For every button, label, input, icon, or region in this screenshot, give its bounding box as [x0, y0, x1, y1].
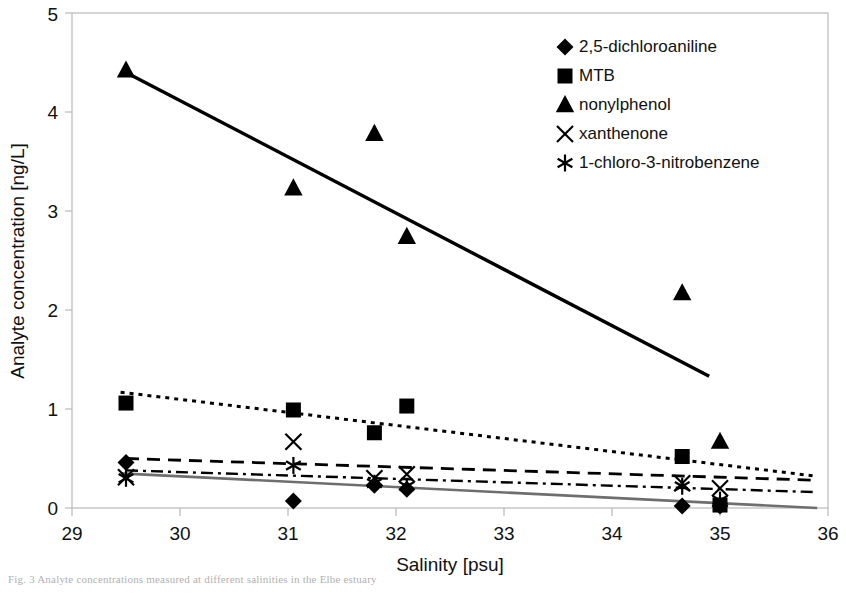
data-point	[399, 399, 414, 414]
data-point	[286, 402, 301, 417]
y-tick-label: 1	[47, 399, 58, 420]
legend-label: xanthenone	[579, 124, 668, 143]
y-axis-title: Analyte concentration [ng/L]	[7, 143, 28, 379]
legend-label: 2,5-dichloroaniline	[579, 37, 717, 56]
y-tick-label: 5	[47, 4, 58, 25]
x-tick-label: 35	[709, 523, 730, 544]
x-tick-label: 36	[817, 523, 838, 544]
y-tick-label: 4	[47, 102, 58, 123]
legend-label: MTB	[579, 66, 615, 85]
x-tick-label: 33	[493, 523, 514, 544]
x-tick-label: 32	[385, 523, 406, 544]
x-tick-label: 34	[601, 523, 623, 544]
data-point	[119, 396, 134, 411]
legend-label: 1-chloro-3-nitrobenzene	[579, 153, 760, 172]
y-tick-label: 3	[47, 201, 58, 222]
data-point	[675, 449, 690, 464]
plot-area-border	[72, 13, 828, 508]
legend-label: nonylphenol	[579, 95, 671, 114]
figure-caption: Fig. 3 Analyte concentrations measured a…	[8, 573, 838, 585]
data-point	[367, 425, 382, 440]
figure-container: 0 1 2 3 4 5 29 30 31 32 33 34 35 36 Sali…	[0, 0, 846, 595]
scatter-chart: 0 1 2 3 4 5 29 30 31 32 33 34 35 36 Sali…	[0, 0, 846, 575]
y-tick-labels: 0 1 2 3 4 5	[47, 4, 58, 519]
x-tick-labels: 29 30 31 32 33 34 35 36	[61, 523, 838, 544]
x-tick-label: 29	[61, 523, 82, 544]
x-tick-label: 30	[169, 523, 190, 544]
legend-marker-square-icon	[558, 69, 573, 84]
y-tick-label: 2	[47, 300, 58, 321]
x-tick-label: 31	[277, 523, 298, 544]
y-tick-label: 0	[47, 498, 58, 519]
x-axis-title: Salinity [psu]	[396, 554, 504, 575]
y-axis-ticks	[65, 13, 72, 508]
plot-frame	[72, 13, 828, 508]
